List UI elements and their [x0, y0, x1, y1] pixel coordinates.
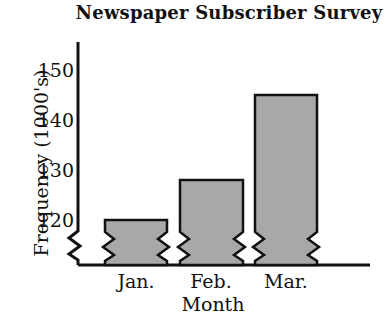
x-tick-label-mar: Mar. [241, 272, 331, 291]
x-axis-title: Month [148, 295, 278, 314]
y-axis-line-with-break [69, 42, 80, 265]
chart-container: Newspaper Subscriber Survey Frequency (1… [0, 0, 386, 320]
bar-jan[interactable] [103, 220, 169, 265]
bar-feb[interactable] [178, 180, 245, 265]
bar-mar[interactable] [253, 95, 319, 265]
